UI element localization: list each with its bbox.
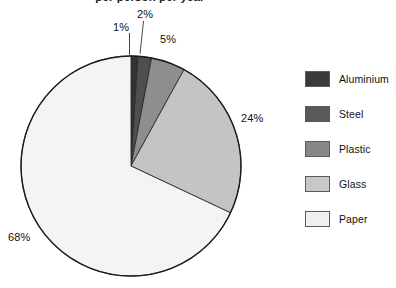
legend-item-plastic: Plastic <box>305 131 395 166</box>
legend-swatch-paper <box>305 211 330 227</box>
slice-label-glass: 24% <box>241 112 263 124</box>
legend-label: Steel <box>339 108 363 120</box>
legend-swatch-plastic <box>305 141 330 157</box>
legend-swatch-steel <box>305 106 330 122</box>
slice-label-steel: 2% <box>137 8 153 20</box>
legend-label: Aluminium <box>339 73 389 85</box>
legend-label: Plastic <box>339 143 371 155</box>
pie-slice-group <box>21 56 241 276</box>
pie-svg <box>20 55 242 277</box>
legend-item-paper: Paper <box>305 201 395 236</box>
pie-chart-figure: per person per year 1% 2% 5% 24% 68% Alu… <box>0 0 396 288</box>
leader-line-steel <box>140 21 144 54</box>
slice-label-aluminium: 1% <box>113 21 129 33</box>
legend-item-aluminium: Aluminium <box>305 61 395 96</box>
legend-item-glass: Glass <box>305 166 395 201</box>
leader-line-aluminium <box>129 33 130 57</box>
legend-swatch-glass <box>305 176 330 192</box>
pie-plot-area <box>20 55 242 277</box>
legend-swatch-aluminium <box>305 71 330 87</box>
chart-title: per person per year <box>0 0 300 3</box>
slice-label-paper: 68% <box>8 231 30 243</box>
legend-label: Paper <box>339 213 368 225</box>
legend-label: Glass <box>339 178 366 190</box>
legend-item-steel: Steel <box>305 96 395 131</box>
chart-legend: AluminiumSteelPlasticGlassPaper <box>305 61 395 236</box>
slice-label-plastic: 5% <box>160 33 176 45</box>
